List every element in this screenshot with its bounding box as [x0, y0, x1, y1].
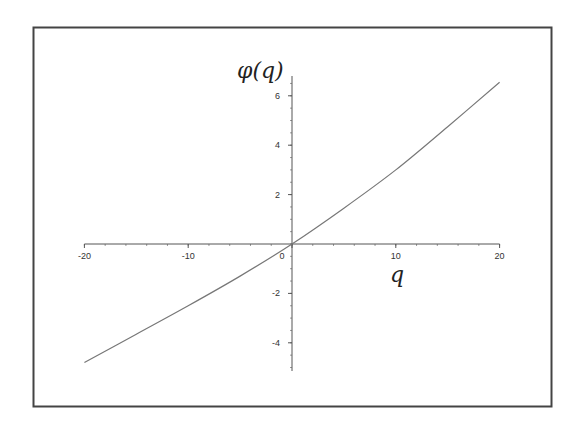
- x-axis-title: q: [390, 262, 404, 287]
- y-axis-title: φ(q): [237, 58, 284, 83]
- x-tick-label: -10: [182, 251, 195, 261]
- chart: -20-1001020-4-2246 φ(q) q: [0, 0, 583, 430]
- y-tick-label: 4: [275, 140, 280, 150]
- x-tick-label: 0: [279, 251, 284, 261]
- y-tick-label: 2: [275, 190, 280, 200]
- x-tick-label: 20: [495, 251, 505, 261]
- x-tick-label: -20: [78, 251, 91, 261]
- y-tick-label: -4: [272, 338, 280, 348]
- x-tick-label: 10: [391, 251, 401, 261]
- y-tick-label: -2: [272, 288, 280, 298]
- y-tick-label: 6: [275, 91, 280, 101]
